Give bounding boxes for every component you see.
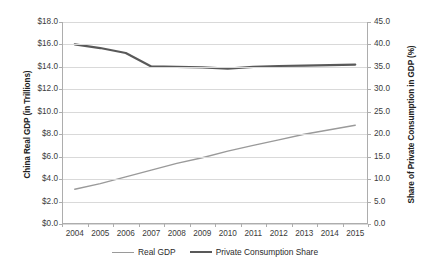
right-axis-tick-mark (368, 112, 371, 113)
left-axis-tick-mark (59, 67, 62, 68)
left-axis-tick-mark (59, 202, 62, 203)
right-axis-tick-mark (368, 44, 371, 45)
right-axis-tick-mark (368, 134, 371, 135)
right-axis-tick-mark (368, 179, 371, 180)
left-axis-tick-label: $14.0 (0, 63, 58, 71)
left-axis-tick-label: $8.0 (0, 130, 58, 138)
left-axis-line (62, 22, 63, 224)
left-axis-tick-label: $4.0 (0, 175, 58, 183)
x-axis-tick-mark (215, 224, 216, 227)
left-axis-tick-mark (59, 112, 62, 113)
legend-line-swatch (190, 251, 212, 253)
right-axis-line (367, 22, 368, 224)
x-axis-tick-mark (368, 224, 369, 227)
left-axis-tick-label: $6.0 (0, 153, 58, 161)
legend-item[interactable]: Real GDP (112, 247, 176, 257)
left-axis-tick-mark (59, 157, 62, 158)
left-axis-tick-mark (59, 179, 62, 180)
x-axis-tick-label: 2015 (335, 230, 375, 238)
gridline (62, 67, 368, 68)
gridline (62, 22, 368, 23)
legend-item-label: Real GDP (138, 247, 176, 257)
series-lines (62, 22, 368, 224)
legend-line-swatch (112, 252, 134, 253)
series-line (75, 44, 356, 68)
x-axis-tick-mark (317, 224, 318, 227)
legend-item-label: Private Consumption Share (216, 247, 318, 257)
gridline (62, 89, 368, 90)
right-axis-tick-label: 25.0 (374, 108, 424, 116)
left-axis-tick-mark (59, 134, 62, 135)
left-axis-title: China Real GDP (in Trillions) (23, 30, 32, 220)
chart-container: China Real GDP (in Trillions) Share of P… (0, 0, 430, 271)
left-axis-tick-label: $16.0 (0, 40, 58, 48)
right-axis-tick-mark (368, 67, 371, 68)
gridline (62, 157, 368, 158)
left-axis-tick-label: $2.0 (0, 198, 58, 206)
left-axis-tick-label: $12.0 (0, 85, 58, 93)
left-axis-tick-mark (59, 44, 62, 45)
left-axis-tick-label: $0.0 (0, 220, 58, 228)
left-axis-tick-mark (59, 89, 62, 90)
x-axis-tick-mark (292, 224, 293, 227)
right-axis-tick-label: 30.0 (374, 85, 424, 93)
x-axis-tick-mark (164, 224, 165, 227)
legend-item[interactable]: Private Consumption Share (190, 247, 318, 257)
x-axis-tick-mark (88, 224, 89, 227)
right-axis-tick-label: 45.0 (374, 18, 424, 26)
x-axis-tick-mark (266, 224, 267, 227)
gridline (62, 202, 368, 203)
right-axis-tick-label: 15.0 (374, 153, 424, 161)
x-axis-tick-mark (139, 224, 140, 227)
x-axis-tick-mark (62, 224, 63, 227)
x-axis-tick-mark (343, 224, 344, 227)
gridline (62, 134, 368, 135)
right-axis-tick-label: 0.0 (374, 220, 424, 228)
right-axis-tick-mark (368, 89, 371, 90)
x-axis-tick-mark (113, 224, 114, 227)
right-axis-tick-label: 20.0 (374, 130, 424, 138)
gridline (62, 44, 368, 45)
plot-area (62, 22, 368, 224)
gridline (62, 112, 368, 113)
left-axis-tick-label: $10.0 (0, 108, 58, 116)
right-axis-tick-label: 40.0 (374, 40, 424, 48)
right-axis-tick-label: 35.0 (374, 63, 424, 71)
left-axis-tick-mark (59, 22, 62, 23)
right-axis-tick-label: 10.0 (374, 175, 424, 183)
chart-legend: Real GDPPrivate Consumption Share (0, 247, 430, 257)
x-axis-tick-mark (190, 224, 191, 227)
right-axis-tick-mark (368, 22, 371, 23)
right-axis-tick-mark (368, 202, 371, 203)
x-axis-tick-mark (241, 224, 242, 227)
left-axis-tick-label: $18.0 (0, 18, 58, 26)
right-axis-tick-label: 5.0 (374, 198, 424, 206)
right-axis-tick-mark (368, 157, 371, 158)
gridline (62, 179, 368, 180)
